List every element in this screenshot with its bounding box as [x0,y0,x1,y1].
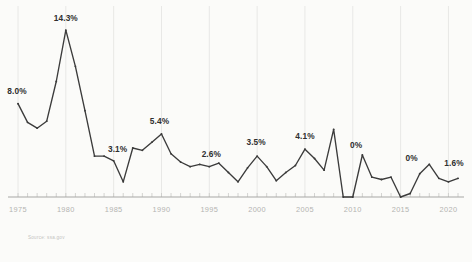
data-point-2009 [342,196,344,198]
data-point-1981 [74,65,76,67]
data-point-1989 [151,141,153,143]
data-point-1979 [55,81,57,83]
data-point-1988 [141,149,143,151]
x-tick-label-2010: 2010 [344,205,362,214]
data-point-1994 [199,163,201,165]
data-point-2021 [457,177,459,179]
data-point-1978 [46,120,48,122]
data-point-1984 [103,155,105,157]
chart-canvas: 1975198019851990199520002005201020152020… [0,0,472,262]
data-point-1977 [36,127,38,129]
x-tick-label-2020: 2020 [440,205,458,214]
x-tick-label-1980: 1980 [57,205,75,214]
data-point-2018 [428,163,430,165]
point-label-2015: 0% [406,153,419,163]
data-point-1995 [208,166,210,168]
axis-tick-marks [18,193,458,197]
data-point-2016 [409,193,411,195]
cola-line-chart: 1975198019851990199520002005201020152020… [0,0,472,262]
data-point-1997 [227,172,229,174]
data-point-markers [17,29,459,198]
data-point-2014 [390,176,392,178]
data-point-2013 [381,179,383,181]
point-label-1995: 2.6% [202,149,222,159]
data-point-1999 [247,167,249,169]
point-label-2000: 3.5% [246,137,266,147]
data-point-1996 [218,162,220,164]
x-tick-label-1995: 1995 [200,205,218,214]
data-point-2004 [294,165,296,167]
x-axis-labels: 1975198019851990199520002005201020152020 [9,205,457,214]
series-line-social-security-cola [18,30,458,197]
x-tick-label-1985: 1985 [105,205,123,214]
data-point-2017 [419,173,421,175]
point-label-2021: 1.6% [444,158,464,168]
data-point-1986 [122,181,124,183]
data-point-1985 [113,160,115,162]
data-point-2007 [323,169,325,171]
data-point-1998 [237,181,239,183]
x-tick-label-2015: 2015 [392,205,410,214]
data-point-1982 [84,110,86,112]
source-note: Source: ssa.gov [28,235,65,240]
point-label-2005: 4.1% [295,131,315,141]
data-point-2011 [361,154,363,156]
data-point-2019 [438,177,440,179]
data-point-2005 [304,148,306,150]
data-point-2001 [266,166,268,168]
data-point-2000 [256,155,258,157]
x-tick-label-2000: 2000 [248,205,266,214]
data-point-1990 [161,133,163,135]
data-point-2020 [447,181,449,183]
data-point-1993 [189,166,191,168]
point-label-2009: 0% [350,140,363,150]
point-label-1980: 14.3% [54,13,79,23]
data-point-1991 [170,153,172,155]
x-tick-label-1990: 1990 [153,205,171,214]
data-point-labels: 8.0%14.3%3.1%5.4%2.6%3.5%4.1%0%0%1.6% [7,13,464,168]
data-point-1980 [65,29,67,31]
data-point-2012 [371,176,373,178]
data-point-1987 [132,147,134,149]
data-point-2006 [314,158,316,160]
data-point-2008 [333,128,335,130]
data-point-1992 [180,161,182,163]
data-point-1976 [27,121,29,123]
data-point-1975 [17,103,19,105]
x-tick-label-1975: 1975 [9,205,27,214]
data-point-2010 [352,196,354,198]
point-label-1975: 8.0% [7,86,27,96]
point-label-1985: 3.1% [108,144,128,154]
data-point-2002 [275,180,277,182]
data-point-2015 [400,196,402,198]
data-point-1983 [94,155,96,157]
point-label-1990: 5.4% [150,116,170,126]
data-point-2003 [285,172,287,174]
x-tick-label-2005: 2005 [296,205,314,214]
